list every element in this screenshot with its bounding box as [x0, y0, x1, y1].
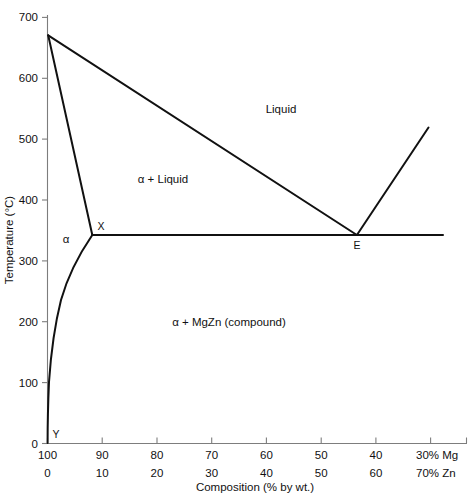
region-label-alpha: α [63, 233, 70, 245]
region-label-alpha-plus-liquid: α + Liquid [138, 173, 188, 185]
x-tick-label-mg-60: 60 [260, 449, 273, 461]
phase-diagram-svg: 0 100 200 300 400 500 600 700 100 90 80 [0, 0, 475, 493]
x-tick-label-zn-10: 10 [96, 467, 109, 479]
phase-diagram-figure: 0 100 200 300 400 500 600 700 100 90 80 [0, 0, 475, 493]
region-label-alpha-plus-mgzn: α + MgZn (compound) [172, 316, 286, 328]
region-label-liquid: Liquid [266, 103, 297, 115]
liquidus-left-curve [48, 35, 357, 235]
y-tick-label-200: 200 [19, 316, 38, 328]
point-label-y: Y [52, 428, 59, 440]
y-tick-label-600: 600 [19, 72, 38, 84]
y-tick-label-300: 300 [19, 255, 38, 267]
x-tick-label-mg-30: 30% Mg [416, 449, 458, 461]
x-tick-label-mg-90: 90 [96, 449, 109, 461]
y-tick-label-0: 0 [32, 438, 38, 450]
x-tick-label-mg-80: 80 [151, 449, 164, 461]
y-tick-label-400: 400 [19, 194, 38, 206]
x-tick-label-mg-70: 70 [205, 449, 218, 461]
x-tick-label-mg-100: 100 [38, 449, 57, 461]
x-tick-label-zn-0: 0 [44, 467, 50, 479]
x-tick-label-zn-20: 20 [151, 467, 164, 479]
x-tick-label-zn-70: 70% Zn [416, 467, 456, 479]
x-tick-label-zn-30: 30 [205, 467, 218, 479]
point-label-e: E [353, 239, 360, 251]
x-axis-title: Composition (% by wt.) [196, 481, 314, 493]
y-tick-label-500: 500 [19, 133, 38, 145]
y-tick-label-700: 700 [19, 11, 38, 23]
x-tick-label-zn-60: 60 [370, 467, 383, 479]
x-tick-label-mg-40: 40 [370, 449, 383, 461]
point-label-x: X [97, 220, 104, 232]
x-tick-label-zn-50: 50 [315, 467, 328, 479]
solidus-left-curve [48, 35, 92, 235]
phase-boundaries [48, 35, 443, 443]
x-tick-label-zn-40: 40 [260, 467, 273, 479]
liquidus-right-curve [357, 128, 429, 236]
x-tick-label-mg-50: 50 [315, 449, 328, 461]
x-axis: 100 90 80 70 60 50 40 30% Mg 0 10 20 30 … [38, 438, 467, 480]
y-tick-label-100: 100 [19, 377, 38, 389]
y-axis-title: Temperature (°C) [3, 196, 15, 284]
y-axis: 0 100 200 300 400 500 600 700 [19, 11, 48, 449]
solvus-curve [48, 235, 93, 443]
